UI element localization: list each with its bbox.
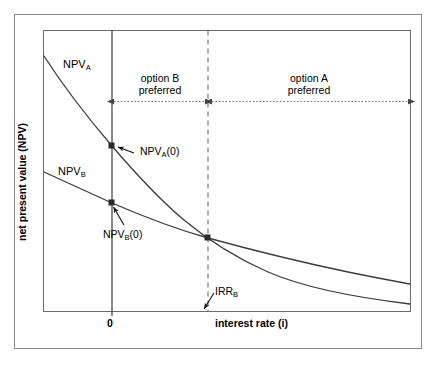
annotation-irr-b: IRRB [215,285,238,298]
y-axis-label: net present value (NPV) [16,97,28,267]
curve-label-npv-a: NPVA [63,58,91,71]
annotation-npv-a-zero-main: NPV [140,145,162,157]
curve-label-npv-b: NPVB [58,165,86,178]
annotation-irr-b-sub: B [233,290,238,299]
npv-irr-chart-figure: NPVA NPVB option B preferred option A pr… [0,0,437,365]
region-label-option-a-line1: option A [268,72,350,84]
curve-label-npv-a-sub: A [86,63,91,72]
curve-label-npv-a-main: NPV [63,58,86,70]
irr-b-pointer [204,293,214,309]
marker-crossing-point [205,235,211,241]
marker-npv-b-zero [109,200,115,206]
annotation-npv-a-zero-suffix: (0) [167,145,180,157]
x-axis-tick-label-zero: 0 [107,317,113,329]
chart-canvas [0,0,437,365]
region-label-option-a: option A preferred [268,72,350,96]
npv-a-zero-pointer [118,147,134,153]
annotation-npv-b-zero-suffix: (0) [130,228,143,240]
annotation-npv-a-zero: NPVA(0) [140,145,179,158]
plot-area-border [44,31,411,312]
annotation-npv-b-zero: NPVB(0) [103,228,142,241]
region-label-option-a-line2: preferred [268,84,350,96]
region-label-option-b-line1: option B [119,72,201,84]
x-axis-label: interest rate (i) [215,317,288,329]
region-label-option-b-line2: preferred [119,84,201,96]
annotation-npv-a-zero-sub: A [162,150,167,159]
annotation-npv-b-zero-sub: B [125,233,130,242]
annotation-irr-b-main: IRR [215,285,233,297]
npv-b-zero-pointer [114,207,125,225]
npv-b-curve [44,172,410,284]
curve-label-npv-b-main: NPV [58,165,81,177]
annotation-npv-b-zero-main: NPV [103,228,125,240]
marker-npv-a-zero [109,143,115,149]
region-label-option-b: option B preferred [119,72,201,96]
curve-label-npv-b-sub: B [81,170,86,179]
npv-a-curve [44,56,410,304]
